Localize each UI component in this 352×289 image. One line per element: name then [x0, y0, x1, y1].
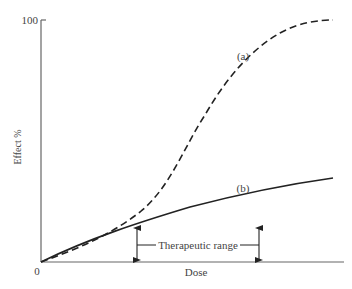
y-max-label: 100	[22, 14, 39, 26]
x-axis-label: Dose	[185, 266, 208, 278]
y-axis-label: Effect %	[12, 129, 23, 164]
curve-a-dashed	[41, 20, 333, 262]
dose-response-chart: 100 0 Dose Effect % (a) (b) Therapeutic …	[0, 0, 352, 289]
therapeutic-range-label: Therapeutic range	[158, 239, 238, 251]
origin-label: 0	[34, 265, 40, 277]
curve-a-label: (a)	[237, 50, 250, 63]
curve-b-label: (b)	[237, 182, 250, 195]
